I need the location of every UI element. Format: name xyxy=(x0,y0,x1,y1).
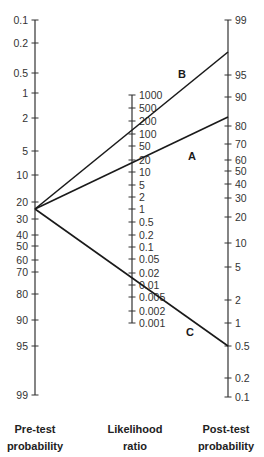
pretest-axis: 0.10.20.51251020304050607080909599 xyxy=(13,14,38,401)
pretest-caption-line2: probability xyxy=(0,438,80,455)
tick-label: 0.05 xyxy=(139,253,160,265)
tick-label: 10 xyxy=(235,237,247,249)
tick-label: 80 xyxy=(235,120,247,132)
tick-label: 0.02 xyxy=(139,267,160,279)
tick-label: 95 xyxy=(16,340,28,352)
tick-label: 1000 xyxy=(139,89,163,101)
tick-label: 0.1 xyxy=(13,14,28,26)
tick-label: 50 xyxy=(16,240,28,252)
line-label: C xyxy=(186,326,194,338)
lr-caption-line1: Likelihood xyxy=(90,421,180,438)
tick-label: 70 xyxy=(16,266,28,278)
lr-caption-line2: ratio xyxy=(90,438,180,455)
tick-label: 100 xyxy=(139,128,157,140)
tick-label: 2 xyxy=(139,191,145,203)
tick-label: 1 xyxy=(22,87,28,99)
likelihood-ratio-caption: Likelihood ratio xyxy=(90,421,180,455)
tick-label: 50 xyxy=(235,165,247,177)
tick-label: 30 xyxy=(16,213,28,225)
posttest-caption: Post-test probability xyxy=(181,421,264,455)
tick-label: 5 xyxy=(139,179,145,191)
posttest-caption-line1: Post-test xyxy=(181,421,264,438)
tick-label: 5 xyxy=(235,261,241,273)
tick-label: 0.1 xyxy=(235,391,250,403)
line-label: B xyxy=(178,68,186,80)
tick-label: 80 xyxy=(16,288,28,300)
tick-label: 20 xyxy=(235,211,247,223)
tick-label: 0.001 xyxy=(139,317,165,329)
tick-label: 0.1 xyxy=(139,241,154,253)
tick-label: 0.2 xyxy=(13,37,28,49)
tick-label: 60 xyxy=(16,254,28,266)
tick-label: 0.2 xyxy=(139,229,154,241)
tick-label: 0.2 xyxy=(235,372,250,384)
likelihood-ratio-axis: 10005002001005020105210.50.20.10.050.020… xyxy=(129,89,166,329)
tick-label: 0.5 xyxy=(13,67,28,79)
axes: 0.10.20.51251020304050607080909599100050… xyxy=(13,14,249,403)
tick-label: 50 xyxy=(139,140,151,152)
tick-label: 20 xyxy=(16,196,28,208)
tick-label: 0.5 xyxy=(139,216,154,228)
tick-label: 99 xyxy=(16,389,28,401)
tick-label: 90 xyxy=(235,91,247,103)
pretest-caption-line1: Pre-test xyxy=(0,421,80,438)
pretest-caption: Pre-test probability xyxy=(0,421,80,455)
tick-label: 95 xyxy=(235,69,247,81)
tick-label: 99 xyxy=(235,14,247,26)
tick-label: 1 xyxy=(139,203,145,215)
fagan-nomogram: 0.10.20.51251020304050607080909599100050… xyxy=(0,0,264,457)
tick-label: 10 xyxy=(16,169,28,181)
tick-label: 0.5 xyxy=(235,340,250,352)
tick-label: 1 xyxy=(235,317,241,329)
tick-label: 30 xyxy=(235,192,247,204)
line-label: A xyxy=(188,150,196,162)
tick-label: 20 xyxy=(139,154,151,166)
posttest-axis: 99959080706050403020105210.50.20.1 xyxy=(225,14,250,403)
tick-label: 0.002 xyxy=(139,305,165,317)
posttest-caption-line2: probability xyxy=(181,438,264,455)
tick-label: 40 xyxy=(235,178,247,190)
tick-label: 10 xyxy=(139,166,151,178)
tick-label: 90 xyxy=(16,314,28,326)
tick-label: 2 xyxy=(235,294,241,306)
tick-label: 70 xyxy=(235,138,247,150)
tick-label: 5 xyxy=(22,145,28,157)
tick-label: 2 xyxy=(22,112,28,124)
